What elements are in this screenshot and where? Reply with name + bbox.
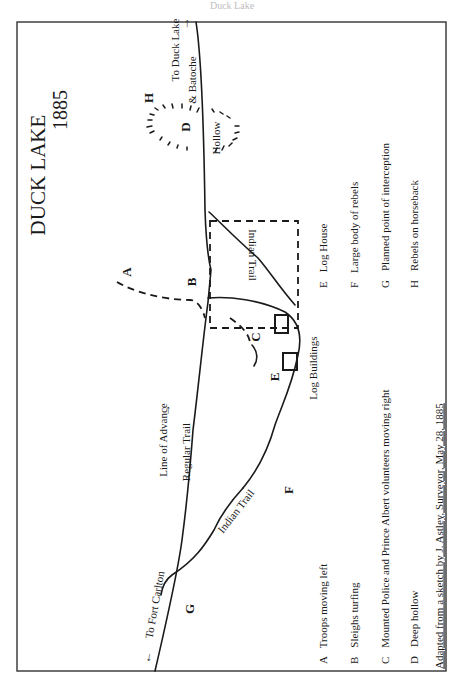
map-title: DUCK LAKE xyxy=(26,115,50,236)
svg-text:H: H xyxy=(141,93,156,103)
svg-text:& Batoche: & Batoche xyxy=(186,56,198,103)
log-buildings-loop-line xyxy=(208,298,300,488)
legend: ATroops moving left BSleighs turfing CMo… xyxy=(317,143,445,669)
marker-d: D xyxy=(178,122,193,131)
svg-text:To Fort Carlton: To Fort Carlton xyxy=(143,570,167,640)
arrow-to-duck-lake: ↑ xyxy=(184,16,190,30)
svg-text:DUCK LAKE: DUCK LAKE xyxy=(26,115,50,236)
marker-c: C xyxy=(248,332,263,341)
svg-text:GPlanned point of interception: GPlanned point of interception xyxy=(379,143,391,288)
svg-text:F: F xyxy=(281,486,296,494)
svg-text:FLarge body of rebels: FLarge body of rebels xyxy=(348,182,360,288)
marker-a: A xyxy=(119,267,134,277)
troops-arc-a xyxy=(117,282,205,318)
svg-text:D: D xyxy=(178,122,193,131)
svg-text:G: G xyxy=(182,604,197,614)
legend-item-a: ATroops moving left xyxy=(317,564,329,664)
svg-text:1885: 1885 xyxy=(49,90,71,130)
indian-trail-lower-line xyxy=(161,488,243,595)
svg-text:BSleighs turfing: BSleighs turfing xyxy=(348,582,360,664)
svg-text:ATroops moving left: ATroops moving left xyxy=(317,564,329,664)
label-and-batoche: & Batoche xyxy=(186,56,198,103)
credit-line: Adapted from a sketch by J. Astley, Surv… xyxy=(433,403,445,669)
svg-text:HRebels on horseback: HRebels on horseback xyxy=(408,180,420,288)
marker-f: F xyxy=(281,486,296,494)
map-year: 1885 xyxy=(49,90,71,130)
label-to-duck-lake: To Duck Lake xyxy=(169,19,181,82)
svg-text:ELog House: ELog House xyxy=(317,224,329,288)
legend-item-c: CMounted Police and Prince Albert volunt… xyxy=(379,390,391,665)
svg-text:Indian Trail: Indian Trail xyxy=(215,487,256,535)
duck-lake-map: Duck Lake DUCK LAKE 1885 xyxy=(0,0,464,689)
svg-text:To Duck Lake: To Duck Lake xyxy=(169,19,181,82)
svg-text:C: C xyxy=(248,332,263,341)
label-indian-trail-lower: Indian Trail xyxy=(215,487,256,535)
marker-h: H xyxy=(141,93,156,103)
c-arc-end xyxy=(252,345,257,366)
svg-text:DDeep hollow: DDeep hollow xyxy=(408,590,420,664)
hollow-ring xyxy=(147,104,239,152)
svg-text:Log Buildings: Log Buildings xyxy=(307,336,319,399)
svg-text:A: A xyxy=(119,267,134,277)
marker-e: E xyxy=(267,373,282,382)
arrow-line-of-advance: → xyxy=(159,404,173,416)
marker-g: G xyxy=(182,604,197,614)
arrow-to-fort-carlton: ← xyxy=(139,650,155,664)
legend-item-h: HRebels on horseback xyxy=(408,180,420,288)
page-header: Duck Lake xyxy=(210,0,255,11)
label-indian-trail-upper: Indian Trail xyxy=(247,229,259,281)
label-log-buildings: Log Buildings xyxy=(307,336,319,399)
label-regular-trail: Regular Trail xyxy=(180,423,192,481)
legend-item-g: GPlanned point of interception xyxy=(379,143,391,288)
svg-text:E: E xyxy=(267,373,282,382)
legend-item-b: BSleighs turfing xyxy=(348,582,360,664)
svg-text:Adapted from a sketch by J. As: Adapted from a sketch by J. Astley, Surv… xyxy=(433,403,445,669)
legend-item-e: ELog House xyxy=(317,224,329,288)
label-hollow: Hollow xyxy=(210,121,222,154)
svg-text:Regular Trail: Regular Trail xyxy=(180,423,192,481)
svg-text:Hollow: Hollow xyxy=(210,121,222,154)
label-to-fort-carlton: To Fort Carlton xyxy=(143,570,167,640)
svg-text:Indian Trail: Indian Trail xyxy=(247,229,259,281)
legend-item-f: FLarge body of rebels xyxy=(348,182,360,288)
svg-text:CMounted Police and Prince Alb: CMounted Police and Prince Albert volunt… xyxy=(379,390,391,665)
svg-text:B: B xyxy=(184,277,199,286)
legend-item-d: DDeep hollow xyxy=(408,590,420,664)
log-building-1 xyxy=(275,315,288,333)
marker-b: B xyxy=(184,277,199,286)
